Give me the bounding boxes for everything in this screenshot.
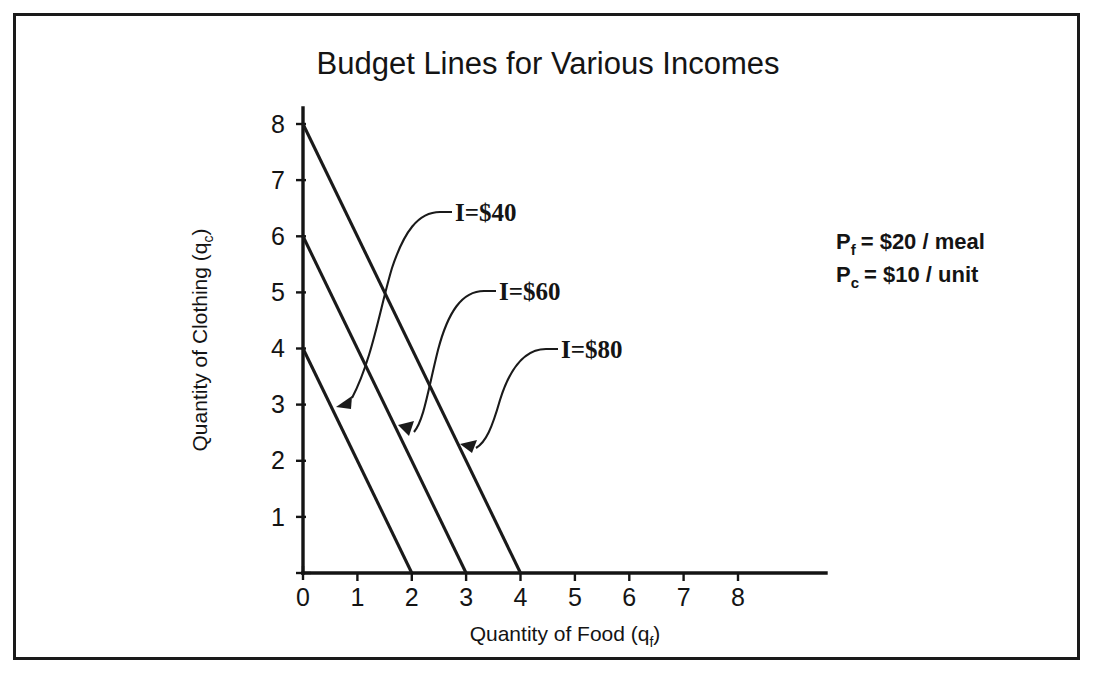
y-tick-label-7: 7 xyxy=(271,166,285,194)
x-tick-label-0: 0 xyxy=(296,583,310,611)
x-tick-label-8: 8 xyxy=(731,583,745,611)
price-note-food-symbol: P xyxy=(836,229,851,254)
annotation-label-i60: I=$60 xyxy=(499,278,560,305)
annotation-leader-i80 xyxy=(460,349,558,453)
budget-line-i80 xyxy=(303,124,521,573)
x-axis-title-main: Quantity of Food (q xyxy=(470,622,650,645)
y-tick-labels: 1 2 3 4 5 6 7 8 xyxy=(271,110,285,531)
x-tick-label-5: 5 xyxy=(568,583,582,611)
y-tick-label-1: 1 xyxy=(271,503,285,531)
y-tick-label-4: 4 xyxy=(271,334,285,362)
y-axis-title-subscript: c xyxy=(200,236,216,243)
price-note-clothing-value: = $10 / unit xyxy=(864,262,979,287)
budget-line-i60 xyxy=(303,236,466,573)
annotation-label-i80: I=$80 xyxy=(561,336,622,363)
y-tick-label-2: 2 xyxy=(271,446,285,474)
price-note-clothing: Pc= $10 / unit xyxy=(836,262,979,291)
y-axis-title-close: ) xyxy=(188,229,211,236)
budget-line-i40 xyxy=(303,349,412,574)
y-tick-label-5: 5 xyxy=(271,278,285,306)
x-tick-label-6: 6 xyxy=(622,583,636,611)
y-axis-title-main: Quantity of Clothing (q xyxy=(188,243,211,452)
x-tick-labels: 0 1 2 3 4 5 6 7 8 xyxy=(296,583,745,611)
arrow-head-i60 xyxy=(398,421,414,436)
x-axis-title-close: ) xyxy=(653,622,660,645)
x-tick-label-7: 7 xyxy=(677,583,691,611)
annotation-label-i40: I=$40 xyxy=(455,199,516,226)
annotation-leader-i60 xyxy=(398,291,496,436)
x-tick-label-1: 1 xyxy=(350,583,364,611)
price-note-food-value: = $20 / meal xyxy=(861,229,985,254)
y-tick-label-6: 6 xyxy=(271,222,285,250)
price-note-clothing-subscript: c xyxy=(851,274,859,291)
y-tick-label-3: 3 xyxy=(271,390,285,418)
y-axis-title: Quantity of Clothing (qc) xyxy=(188,229,216,452)
price-note-clothing-symbol: P xyxy=(836,262,851,287)
figure-page: Budget Lines for Various Incomes xyxy=(0,0,1095,674)
x-tick-label-4: 4 xyxy=(514,583,528,611)
arrow-head-i40 xyxy=(336,396,352,409)
x-tick-label-2: 2 xyxy=(405,583,419,611)
x-axis-title: Quantity of Food (qf) xyxy=(470,622,661,650)
price-note-food-subscript: f xyxy=(851,241,857,258)
budget-line-chart: Budget Lines for Various Incomes xyxy=(0,0,1095,674)
price-note-food: Pf= $20 / meal xyxy=(836,229,985,258)
x-tick-label-3: 3 xyxy=(459,583,473,611)
chart-title: Budget Lines for Various Incomes xyxy=(317,46,780,81)
y-tick-label-8: 8 xyxy=(271,110,285,138)
